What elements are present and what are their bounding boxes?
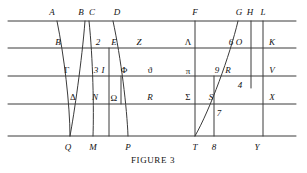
point-label-P: P	[125, 143, 131, 152]
point-label-pi: π	[186, 67, 191, 76]
point-label-I: I	[101, 66, 104, 75]
point-label-F: F	[192, 8, 198, 17]
point-label-R-row3: R	[225, 66, 231, 75]
point-label-Delta: Δ	[70, 93, 76, 102]
point-label-S: S	[209, 93, 214, 102]
point-label-three: 3	[94, 66, 99, 75]
point-label-Gamma: Γ	[64, 66, 69, 75]
point-label-M: M	[89, 143, 97, 152]
point-label-E: E	[111, 38, 117, 47]
figure-caption: FIGURE 3	[131, 155, 175, 165]
point-label-R-row4: R	[147, 93, 153, 102]
figure-container: ABCDFGHLB2EZΛ6OKΓ3IΦϑπ9RV4ΔNΩRΣSX7QMPT8Y…	[0, 0, 307, 173]
point-label-X: X	[269, 93, 275, 102]
curve-C-M	[89, 21, 93, 136]
point-label-D: D	[114, 8, 121, 17]
point-label-six: 6	[229, 38, 234, 47]
point-label-Y: Y	[254, 143, 259, 152]
point-label-N: N	[92, 93, 98, 102]
point-label-theta: ϑ	[148, 66, 153, 75]
point-label-Sigma: Σ	[185, 93, 190, 102]
point-label-G: G	[236, 8, 243, 17]
point-label-Phi: Φ	[121, 66, 128, 75]
point-label-two: 2	[96, 38, 101, 47]
point-label-B-row2: B	[55, 38, 61, 47]
point-label-nine: 9	[215, 66, 220, 75]
point-label-Z: Z	[136, 38, 141, 47]
point-label-four: 4	[238, 81, 243, 90]
point-label-eight: 8	[212, 143, 217, 152]
curve-B-Q	[70, 21, 85, 136]
point-label-L: L	[260, 8, 265, 17]
figure-drawing	[0, 0, 307, 173]
point-label-T: T	[192, 143, 197, 152]
point-label-K: K	[269, 38, 275, 47]
point-label-Q: Q	[65, 143, 72, 152]
point-label-Omega: Ω	[111, 94, 118, 103]
point-label-C: C	[89, 8, 95, 17]
point-label-Lambda: Λ	[185, 38, 192, 47]
point-label-H: H	[247, 8, 254, 17]
point-label-O: O	[236, 38, 243, 47]
point-label-A: A	[49, 8, 55, 17]
point-label-B-top: B	[78, 8, 84, 17]
point-label-V: V	[269, 66, 275, 75]
point-label-seven: 7	[217, 109, 222, 118]
